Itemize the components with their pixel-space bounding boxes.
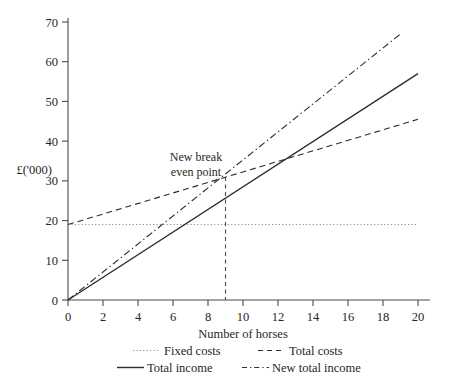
svg-text:70: 70 (46, 16, 59, 30)
svg-text:4: 4 (135, 310, 142, 324)
svg-text:20: 20 (46, 214, 59, 228)
chart-legend: Fixed costs Total costs Total income New… (117, 344, 361, 375)
y-axis-tick-labels: 0 10 20 30 40 50 60 70 (46, 16, 59, 308)
svg-text:30: 30 (46, 174, 59, 188)
break-even-chart: £('000) 0 10 20 30 40 50 60 70 (0, 0, 450, 380)
series-new-total-income (68, 34, 401, 300)
svg-text:16: 16 (342, 310, 355, 324)
legend-label-new-total-income: New total income (272, 361, 361, 375)
legend-label-total-income: Total income (147, 361, 213, 375)
x-axis-title: Number of horses (198, 327, 288, 341)
new-break-even-annotation: New break even point (170, 150, 222, 179)
svg-text:14: 14 (307, 310, 320, 324)
svg-text:12: 12 (272, 310, 285, 324)
x-axis-ticks (68, 300, 418, 306)
legend-label-total-costs: Total costs (289, 344, 343, 358)
y-axis-ticks (62, 22, 68, 300)
series-total-income (68, 74, 418, 300)
svg-text:6: 6 (170, 310, 176, 324)
chart-container: £('000) 0 10 20 30 40 50 60 70 (0, 0, 450, 380)
svg-text:0: 0 (65, 310, 71, 324)
svg-text:18: 18 (377, 310, 390, 324)
svg-text:50: 50 (46, 95, 59, 109)
legend-label-fixed-costs: Fixed costs (164, 344, 221, 358)
annotation-line-1: New break (170, 150, 222, 164)
svg-text:10: 10 (237, 310, 250, 324)
series-total-costs (68, 119, 418, 224)
svg-text:20: 20 (412, 310, 425, 324)
svg-text:2: 2 (100, 310, 106, 324)
x-axis-tick-labels: 0 2 4 6 8 10 12 14 16 18 20 (65, 310, 424, 324)
svg-text:0: 0 (52, 294, 58, 308)
svg-text:60: 60 (46, 55, 59, 69)
svg-text:10: 10 (46, 254, 59, 268)
svg-text:40: 40 (46, 135, 59, 149)
annotation-line-2: even point (171, 165, 222, 179)
svg-text:8: 8 (205, 310, 211, 324)
